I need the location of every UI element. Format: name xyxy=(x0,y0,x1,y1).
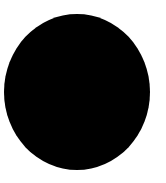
black-circle-shape xyxy=(0,0,166,183)
filled-circle-icon xyxy=(4,14,150,170)
image-canvas xyxy=(0,0,166,183)
